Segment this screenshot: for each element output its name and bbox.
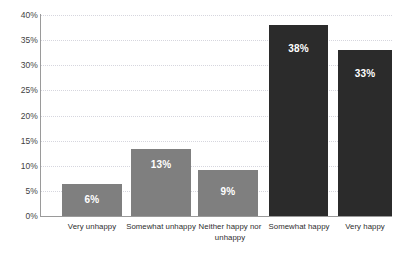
bar-value-label: 6% [62, 195, 122, 205]
bar-value-label: 9% [198, 187, 258, 197]
category-label-somewhat-happy: Somewhat happy [262, 222, 336, 233]
y-tick-label: 10% [4, 162, 38, 171]
y-tick-label: 20% [4, 112, 38, 121]
bar-neither-happy-nor-unhappy[interactable]: 9% [198, 170, 258, 216]
x-axis-line [40, 216, 392, 217]
bar-somewhat-unhappy[interactable]: 13% [131, 149, 191, 216]
y-tick-label: 5% [4, 187, 38, 196]
y-tick-label: 35% [4, 36, 38, 45]
bar-chart: 40% 35% 30% 25% 20% 15% 10% 5% 0% 6% 13%… [0, 0, 404, 257]
y-axis-line [40, 14, 41, 217]
category-label-very-unhappy: Very unhappy [52, 222, 132, 233]
bar-value-label: 13% [131, 160, 191, 170]
y-tick-label: 25% [4, 86, 38, 95]
bar-very-unhappy[interactable]: 6% [62, 184, 122, 216]
y-tick-label: 0% [4, 212, 38, 221]
gridline [40, 15, 392, 16]
bar-somewhat-happy[interactable]: 38% [269, 25, 328, 216]
category-label-very-happy: Very happy [330, 222, 400, 233]
bar-value-label: 38% [269, 44, 328, 54]
gridline [40, 40, 392, 41]
bar-value-label: 33% [338, 69, 392, 79]
y-tick-label: 30% [4, 61, 38, 70]
bar-very-happy[interactable]: 33% [338, 50, 392, 216]
y-tick-label: 15% [4, 137, 38, 146]
y-tick-label: 40% [4, 11, 38, 20]
plot-area: 6% 13% 9% 38% 33% [40, 15, 392, 216]
